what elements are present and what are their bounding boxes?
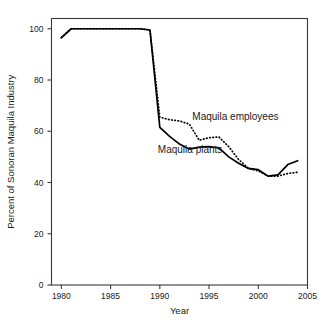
y-tick-label: 100 bbox=[29, 24, 43, 34]
y-tick-label: 0 bbox=[39, 280, 44, 290]
x-tick-label: 1995 bbox=[200, 291, 219, 301]
x-tick-label: 2000 bbox=[249, 291, 268, 301]
y-tick-label: 40 bbox=[34, 178, 44, 188]
axis-tick-layer bbox=[48, 29, 308, 289]
y-tick-label: 20 bbox=[34, 229, 44, 239]
chart-figure: 198019851990199520002005020406080100Year… bbox=[0, 0, 330, 323]
y-tick-label: 60 bbox=[34, 126, 44, 136]
x-tick-label: 1990 bbox=[150, 291, 169, 301]
x-tick-label: 1980 bbox=[52, 291, 71, 301]
y-axis-title: Percent of Sonoran Maquila Industry bbox=[5, 74, 16, 228]
series-annotation-maquila-employees: Maquila employees bbox=[192, 111, 278, 122]
line-chart-canvas: 198019851990199520002005020406080100Year… bbox=[0, 0, 330, 323]
series-annotation-layer: Maquila employeesMaquila plants bbox=[158, 111, 279, 155]
x-tick-label: 2005 bbox=[298, 291, 317, 301]
y-tick-label: 80 bbox=[34, 75, 44, 85]
series-annotation-maquila-plants: Maquila plants bbox=[158, 144, 222, 155]
x-tick-label: 1985 bbox=[101, 291, 120, 301]
x-axis-title: Year bbox=[170, 305, 189, 316]
